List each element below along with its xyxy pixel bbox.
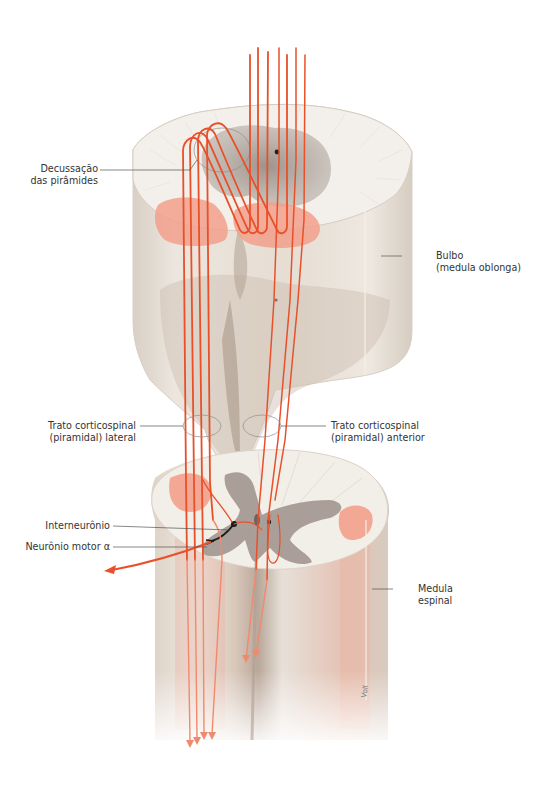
motor-axon-arrow-icon (104, 565, 116, 574)
label-bulbo-line1: Bulbo (436, 250, 521, 262)
label-anterior-tract-line2: (piramidal) anterior (331, 432, 425, 444)
label-interneuron-line1: Interneurônio (10, 520, 110, 532)
label-motor-neuron-line1: Neurônio motor α (0, 541, 110, 553)
label-decussation-line2: das pirâmides (8, 175, 98, 187)
label-spinal-cord-line1: Medula (418, 583, 453, 595)
label-lateral-tract: Trato corticospinal (piramidal) lateral (20, 420, 136, 444)
label-decussation-line1: Decussação (8, 163, 98, 175)
label-interneuron: Interneurônio (10, 520, 110, 532)
label-lateral-tract-line2: (piramidal) lateral (20, 432, 136, 444)
label-decussation: Decussação das pirâmides (8, 163, 98, 187)
label-motor-neuron: Neurônio motor α (0, 541, 110, 553)
label-bulbo-line2: (medula oblonga) (436, 262, 521, 274)
corticospinal-tract-illustration: Voll (0, 0, 543, 795)
label-anterior-tract: Trato corticospinal (piramidal) anterior (331, 420, 425, 444)
label-lateral-tract-line1: Trato corticospinal (20, 420, 136, 432)
medulla-oblongata (133, 104, 412, 470)
label-bulbo: Bulbo (medula oblonga) (436, 250, 521, 274)
label-spinal-cord-line2: espinal (418, 595, 453, 607)
label-spinal-cord: Medula espinal (418, 583, 453, 607)
label-anterior-tract-line1: Trato corticospinal (331, 420, 425, 432)
